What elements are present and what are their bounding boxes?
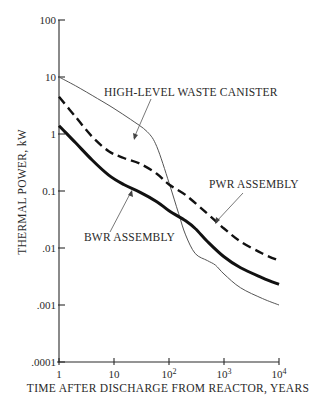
y-tick-label: 1 bbox=[51, 128, 57, 140]
y-tick-label: 100 bbox=[40, 14, 57, 26]
y-tick-label: .0001 bbox=[31, 356, 56, 368]
y-tick-label: .01 bbox=[42, 242, 56, 254]
y-tick-label: .001 bbox=[37, 299, 56, 311]
annotation-pwr-arrow bbox=[216, 193, 243, 222]
x-tick-label: 10 bbox=[109, 368, 121, 380]
series-bwr-assembly bbox=[59, 126, 279, 285]
x-tick-label: 104 bbox=[272, 367, 287, 380]
annotation-pwr-label: PWR ASSEMBLY bbox=[209, 178, 299, 190]
thermal-power-chart: 1001010.1.01.001.0001110102103104 HIGH-L… bbox=[0, 0, 312, 408]
axes bbox=[57, 20, 279, 362]
tick-marks: 1001010.1.01.001.0001110102103104 bbox=[31, 14, 286, 380]
x-tick-label: 102 bbox=[162, 367, 177, 380]
annotation-hlw-arrowhead bbox=[133, 133, 138, 140]
annotation-bwr-label: BWR ASSEMBLY bbox=[84, 231, 176, 243]
annotation-hlw-label: HIGH-LEVEL WASTE CANISTER bbox=[104, 86, 278, 98]
x-tick-label: 1 bbox=[56, 368, 62, 380]
x-axis-title: TIME AFTER DISCHARGE FROM REACTOR, YEARS bbox=[27, 382, 309, 395]
x-tick-label: 103 bbox=[217, 367, 232, 380]
annotation-bwr-arrow bbox=[110, 192, 131, 232]
annotation-hlw-arrow bbox=[134, 99, 151, 138]
y-tick-label: 0.1 bbox=[42, 185, 56, 197]
y-tick-label: 10 bbox=[45, 71, 57, 83]
y-axis-title: THERMAL POWER, kW bbox=[16, 129, 29, 255]
data-series bbox=[59, 77, 279, 305]
